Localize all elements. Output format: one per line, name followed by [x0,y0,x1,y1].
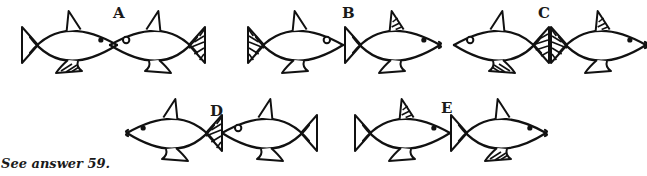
dorsal-fin [163,99,177,119]
fish-facing-right [551,11,647,73]
fish-facing-right [451,99,547,161]
pelvic-fin [56,60,82,73]
fish-facing-right [22,11,117,73]
panel-label-c: C [538,6,550,21]
pelvic-fin [489,60,515,73]
eye-filled-icon [141,125,146,130]
eye-filled-icon [421,37,426,42]
dorsal-fin [496,99,510,119]
mouth [439,42,441,48]
eye-filled-icon [527,125,532,130]
eye-open-icon [235,125,241,131]
dorsal-fin [400,99,414,119]
dorsal-fin [490,11,504,31]
mouth [126,130,128,136]
eye-open-icon [467,37,473,43]
dorsal-fin [596,11,610,31]
eye-filled-icon [98,37,103,42]
eye-open-icon [123,37,129,43]
fish-facing-left [126,99,222,161]
dorsal-fin [258,99,272,119]
answer-caption: See answer 59. [1,156,110,171]
dorsal-fin [67,11,81,31]
fish-facing-right [248,11,343,73]
pelvic-fin [485,148,511,161]
fish-facing-right [345,11,441,73]
eye-filled-icon [627,37,632,42]
dorsal-fin [293,11,307,31]
eye-filled-icon [431,125,436,130]
pelvic-fin [145,60,171,73]
dorsal-fin [146,11,160,31]
panel-label-e: E [441,101,452,116]
fish-puzzle-figure: A B C D E See answer 59. [0,0,647,176]
eye-open-icon [324,37,330,43]
pelvic-fin [585,60,611,73]
pelvic-fin [257,148,283,161]
pelvic-fin [282,60,308,73]
pelvic-fin [162,148,188,161]
panel-label-d: D [210,104,223,119]
panel-label-b: B [342,6,355,21]
mouth [545,130,547,136]
dorsal-fin [390,11,404,31]
panel-label-a: A [113,6,125,21]
fish-facing-right [355,99,450,161]
fish-drawings [0,0,647,176]
fish-facing-left [222,99,317,161]
fish-facing-left [454,11,549,73]
pelvic-fin [379,60,405,73]
pelvic-fin [389,148,415,161]
